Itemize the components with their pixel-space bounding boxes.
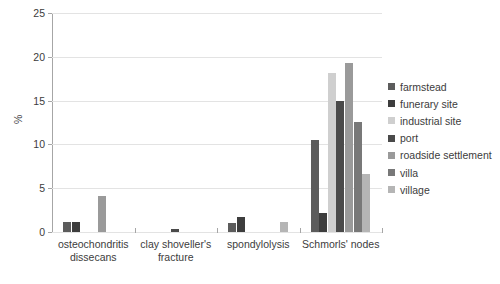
bar-group [135, 13, 218, 232]
legend-swatch-icon [388, 100, 395, 107]
legend-item[interactable]: roadside settlement [388, 147, 492, 164]
bar [98, 196, 106, 232]
legend-item-label: port [400, 132, 418, 144]
bar [280, 222, 288, 232]
x-axis-category-label: spondylolysis [217, 238, 300, 251]
y-tick-label: 25 [33, 7, 45, 19]
legend-swatch-icon [388, 117, 395, 124]
legend-item-label: villa [400, 167, 418, 179]
legend-swatch-icon [388, 83, 395, 90]
x-axis-separator [217, 228, 218, 233]
legend-item-label: industrial site [400, 115, 461, 127]
x-axis-separator [300, 228, 301, 233]
bar-group [52, 13, 135, 232]
legend-swatch-icon [388, 135, 395, 142]
bar [63, 222, 71, 233]
legend-item-label: funerary site [400, 98, 458, 110]
legend-item[interactable]: villa [388, 164, 492, 181]
x-axis-category-label: Schmorls' nodes [300, 238, 383, 251]
bar [228, 223, 236, 232]
legend-swatch-icon [388, 152, 395, 159]
x-axis-category-label-line: dissecans [52, 251, 135, 264]
legend-swatch-icon [388, 169, 395, 176]
legend-item[interactable]: port [388, 130, 492, 147]
x-axis-category-label-line: fracture [135, 251, 218, 264]
legend-item[interactable]: industrial site [388, 112, 492, 129]
legend-item-label: roadside settlement [400, 149, 492, 161]
y-tick-label: 0 [39, 226, 45, 238]
bar [171, 229, 179, 232]
bar [328, 73, 336, 232]
legend-swatch-icon [388, 186, 395, 193]
x-axis-separator-end [382, 228, 383, 233]
y-axis-title: % [12, 115, 24, 124]
x-axis-category-label-line: Schmorls' nodes [300, 238, 383, 251]
bar-chart: % 0510152025 farmsteadfunerary siteindus… [0, 0, 500, 284]
x-axis-category-label-line: osteochondritis [52, 238, 135, 251]
bar [354, 122, 362, 232]
chart-legend: farmsteadfunerary siteindustrial sitepor… [388, 78, 492, 198]
bar [319, 213, 327, 232]
y-tick-label: 15 [33, 95, 45, 107]
x-axis-category-label: clay shoveller'sfracture [135, 238, 218, 263]
y-tick-label: 5 [39, 182, 45, 194]
legend-item[interactable]: farmstead [388, 78, 492, 95]
x-axis-category-label-line: spondylolysis [217, 238, 300, 251]
bar [345, 63, 353, 232]
legend-item-label: farmstead [400, 81, 447, 93]
bar [311, 140, 319, 232]
bar [72, 222, 80, 232]
x-axis-category-label: osteochondritisdissecans [52, 238, 135, 263]
bar [362, 174, 370, 232]
bar-group [217, 13, 300, 232]
legend-item[interactable]: funerary site [388, 95, 492, 112]
x-axis-category-label-line: clay shoveller's [135, 238, 218, 251]
bar [237, 217, 245, 232]
bar-group [300, 13, 383, 232]
legend-item-label: village [400, 184, 430, 196]
y-tick-label: 20 [33, 51, 45, 63]
bar [336, 101, 344, 232]
x-axis-separator [135, 228, 136, 233]
legend-item[interactable]: village [388, 181, 492, 198]
plot-area: 0510152025 [52, 13, 382, 232]
y-tick-mark-0 [48, 232, 52, 233]
y-tick-label: 10 [33, 138, 45, 150]
